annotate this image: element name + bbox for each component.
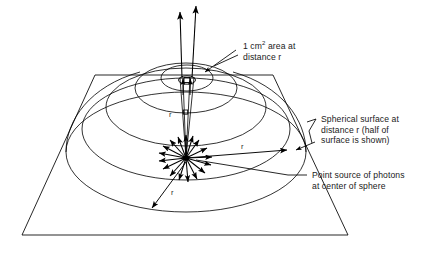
radius-vector-lower-left (152, 162, 186, 208)
surface-callout-line3: surface is shown) (321, 135, 399, 146)
area-callout-line1-suffix: area at (265, 41, 295, 51)
surface-callout-line2: distance r (half of (321, 125, 399, 136)
source-callout-line2: at center of sphere (312, 181, 405, 192)
radius-label-right: r (241, 142, 244, 151)
leader-line-area (205, 50, 238, 72)
radius-label-lower-left: r (171, 188, 174, 197)
area-callout-line1-prefix: 1 cm (243, 41, 262, 51)
hemisphere-latitude-contour-2 (106, 68, 266, 146)
surface-callout-line1: Spherical surface at (321, 114, 399, 125)
leader-line-surface (296, 119, 316, 150)
source-callout-line1: Point source of photons (312, 170, 405, 181)
figure-canvas: 1 cm2 area at distance r Spherical surfa… (0, 0, 435, 253)
surface-callout-label: Spherical surface at distance r (half of… (321, 114, 399, 146)
hemisphere-latitude-contour-1 (82, 78, 290, 180)
area-callout-label: 1 cm2 area at distance r (243, 41, 295, 62)
hemisphere-latitude-contour-3 (135, 63, 237, 113)
area-patch-1cm2 (179, 76, 196, 84)
leader-line-source (196, 160, 307, 175)
radius-label-upper: r (169, 110, 172, 119)
area-callout-line2: distance r (243, 52, 295, 63)
cone-ray-arrows (180, 6, 196, 78)
source-callout-label: Point source of photons at center of sph… (312, 170, 405, 191)
